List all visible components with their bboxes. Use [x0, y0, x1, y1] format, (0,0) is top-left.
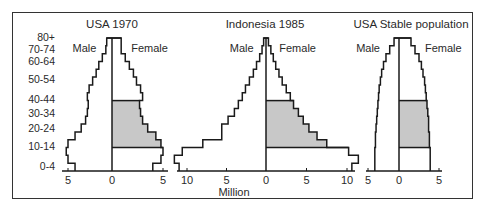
- x-tick-label: 5: [303, 174, 309, 186]
- x-tick-label: 5: [160, 174, 166, 186]
- unit-label: Million: [218, 186, 249, 198]
- pyramid-title: USA Stable population: [353, 18, 468, 30]
- age-label: 50-54: [28, 73, 55, 85]
- male-label: Male: [356, 42, 380, 54]
- female-label: Female: [425, 42, 462, 54]
- x-tick-label: 10: [341, 174, 353, 186]
- pyramid-usa-1970: USA 1970505MaleFemale: [62, 18, 168, 186]
- female-label: Female: [279, 42, 316, 54]
- age-label: 40-44: [28, 93, 55, 105]
- population-pyramids-chart: 80+70-7460-6450-5440-4430-3420-2410-140-…: [0, 0, 483, 210]
- male-outline: [66, 38, 112, 171]
- female-label: Female: [131, 42, 168, 54]
- male-outline: [174, 38, 266, 171]
- pyramid-title: Indonesia 1985: [226, 18, 305, 30]
- age-label: 70-74: [28, 43, 55, 55]
- pyramid-indonesia-1985: Indonesia 19851050510MaleFemale: [174, 18, 358, 186]
- age-label: 20-24: [28, 122, 55, 134]
- age-label: 80+: [37, 31, 55, 43]
- male-label: Male: [230, 42, 254, 54]
- x-tick-label: 5: [365, 174, 371, 186]
- x-tick-label: 5: [436, 174, 442, 186]
- x-tick-label: 0: [396, 174, 402, 186]
- x-tick-label: 5: [65, 174, 71, 186]
- pyramids: USA 1970505MaleFemaleIndonesia 198510505…: [62, 18, 469, 186]
- age-axis-labels: 80+70-7460-6450-5440-4430-3420-2410-140-…: [28, 31, 55, 172]
- x-tick-label: 10: [181, 174, 193, 186]
- age-label: 0-4: [40, 160, 55, 172]
- age-label: 10-14: [28, 140, 55, 152]
- pyramid-usa-stable-population: USA Stable population505MaleFemale: [353, 18, 468, 186]
- age-label: 60-64: [28, 55, 55, 67]
- shaded-reproductive-ages: [399, 101, 429, 148]
- x-tick-label: 0: [109, 174, 115, 186]
- pyramid-title: USA 1970: [86, 18, 138, 30]
- shaded-reproductive-ages: [112, 101, 161, 148]
- age-label: 30-34: [28, 107, 55, 119]
- shaded-reproductive-ages: [266, 101, 327, 148]
- x-tick-label: 5: [223, 174, 229, 186]
- x-tick-label: 0: [263, 174, 269, 186]
- male-label: Male: [72, 42, 96, 54]
- male-outline: [375, 38, 399, 171]
